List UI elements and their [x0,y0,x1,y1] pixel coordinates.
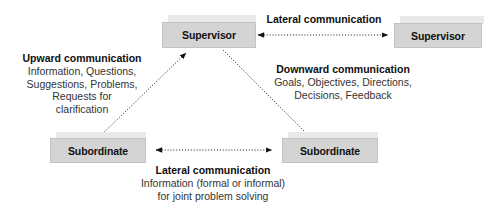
annotation-downward-line-1: Goals, Objectives, Directions, [263,76,423,89]
annotation-downward-line-2: Decisions, Feedback [263,89,423,102]
annotation-downward: Downward communication Goals, Objectives… [263,63,423,101]
annotation-lateral-top-heading: Lateral communication [258,13,390,26]
annotation-lateral-top: Lateral communication [258,13,390,26]
node-subordinate-right-label: Subordinate [300,145,360,157]
annotation-lateral-bottom-line-2: for joint problem solving [118,190,308,203]
node-subordinate-right[interactable]: Subordinate [282,138,378,163]
node-supervisor-left[interactable]: Supervisor [162,22,256,48]
annotation-upward: Upward communication Information, Questi… [8,52,156,115]
annotation-upward-line-4: clarification [8,103,156,116]
node-subordinate-left[interactable]: Subordinate [50,138,146,163]
node-supervisor-left-label: Supervisor [182,29,236,41]
annotation-lateral-bottom-line-1: Information (formal or informal) [118,177,308,190]
annotation-upward-line-1: Information, Questions, [8,65,156,78]
node-supervisor-right-label: Supervisor [411,30,465,42]
annotation-upward-line-3: Requests for [8,90,156,103]
annotation-lateral-bottom: Lateral communication Information (forma… [118,164,308,202]
node-supervisor-right[interactable]: Supervisor [394,23,482,48]
annotation-upward-heading: Upward communication [8,52,156,65]
node-subordinate-left-label: Subordinate [68,145,128,157]
annotation-downward-heading: Downward communication [263,63,423,76]
annotation-lateral-bottom-heading: Lateral communication [118,164,308,177]
annotation-upward-line-2: Suggestions, Problems, [8,78,156,91]
communication-flow-diagram: Supervisor Supervisor Subordinate Subord… [0,0,493,210]
